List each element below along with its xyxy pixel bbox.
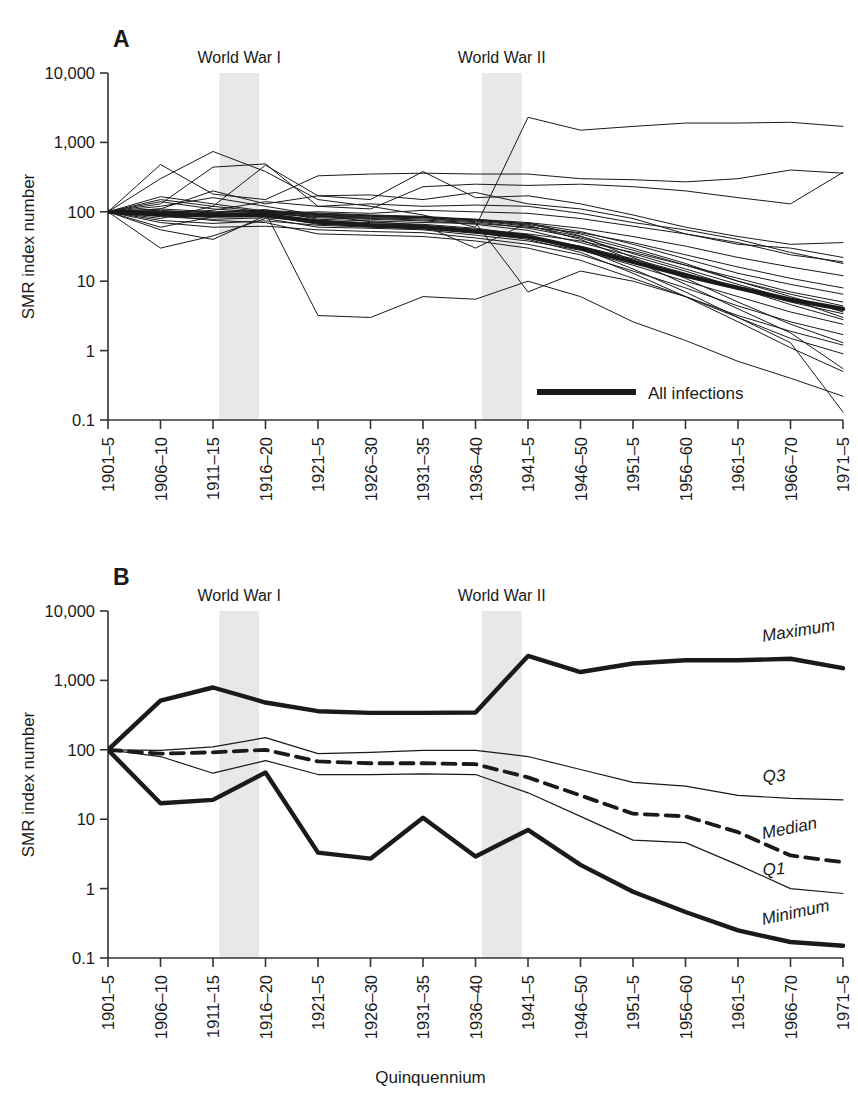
- series-label-median: Median: [760, 814, 818, 843]
- x-tick-label: 1901–5: [99, 975, 117, 1030]
- panel-A: World War IWorld War II10,0001,000100101…: [19, 26, 852, 501]
- figure-root: World War IWorld War II10,0001,000100101…: [0, 0, 858, 1111]
- y-tick-label: 1,000: [54, 133, 95, 151]
- x-tick-label: 1971–5: [834, 975, 852, 1030]
- y-tick-label: 0.1: [72, 411, 95, 429]
- y-tick-label: 10,000: [45, 64, 95, 82]
- x-tick-label: 1921–5: [309, 437, 327, 492]
- x-tick-label: 1906–10: [152, 975, 170, 1039]
- x-tick-label: 1931–35: [414, 975, 432, 1039]
- series-group: [108, 117, 843, 412]
- y-tick-label: 100: [67, 741, 95, 759]
- y-axis-title: SMR index number: [19, 173, 38, 319]
- x-tick-label: 1941–5: [519, 437, 537, 492]
- series-label-maximum: Maximum: [761, 615, 837, 645]
- y-tick-label: 10: [77, 272, 95, 290]
- legend-label-all-infections: All infections: [648, 384, 743, 403]
- x-tick-label: 1966–70: [782, 437, 800, 501]
- x-tick-label: 1951–5: [624, 437, 642, 492]
- x-tick-label: 1971–5: [834, 437, 852, 492]
- x-tick-label: 1921–5: [309, 975, 327, 1030]
- war-label-1: World War I: [197, 49, 281, 66]
- series-line-minimum: [108, 750, 843, 946]
- series-line-cause-1: [108, 117, 843, 227]
- x-tick-label: 1941–5: [519, 975, 537, 1030]
- y-tick-label: 1: [86, 880, 95, 898]
- x-tick-label: 1956–60: [677, 437, 695, 501]
- x-tick-label: 1956–60: [677, 975, 695, 1039]
- x-tick-label: 1946–50: [572, 437, 590, 501]
- war-label-2: World War II: [458, 49, 546, 66]
- x-tick-label: 1961–5: [729, 975, 747, 1030]
- x-tick-label: 1901–5: [99, 437, 117, 492]
- figure-svg: World War IWorld War II10,0001,000100101…: [0, 0, 858, 1111]
- panel-B: World War IWorld War II10,0001,000100101…: [19, 564, 852, 1087]
- war-label-2: World War II: [458, 587, 546, 604]
- y-tick-label: 10: [77, 810, 95, 828]
- series-label-minimum: Minimum: [760, 896, 831, 929]
- y-tick-label: 10,000: [45, 602, 95, 620]
- series-label-q1: Q1: [762, 859, 786, 880]
- x-tick-label: 1906–10: [152, 437, 170, 501]
- war-band-2: [482, 611, 522, 958]
- series-line-q3: [108, 738, 843, 800]
- panel-b-letter: B: [113, 564, 130, 590]
- series-line-maximum: [108, 656, 843, 750]
- x-tick-label: 1926–30: [362, 437, 380, 501]
- x-tick-label: 1911–15: [204, 437, 222, 500]
- y-tick-label: 1: [86, 342, 95, 360]
- y-tick-label: 1,000: [54, 671, 95, 689]
- x-tick-label: 1936–40: [467, 975, 485, 1039]
- y-tick-label: 100: [67, 203, 95, 221]
- x-tick-label: 1951–5: [624, 975, 642, 1030]
- x-tick-label: 1931–35: [414, 437, 432, 501]
- x-axis-title: Quinquennium: [375, 1068, 486, 1087]
- y-tick-label: 0.1: [72, 949, 95, 967]
- series-group: [108, 656, 843, 946]
- war-band-1: [219, 73, 259, 420]
- x-tick-label: 1961–5: [729, 437, 747, 492]
- series-line-cause-22: [108, 212, 843, 306]
- x-tick-label: 1916–20: [257, 437, 275, 501]
- x-tick-label: 1946–50: [572, 975, 590, 1039]
- series-line-q1: [108, 750, 843, 894]
- x-tick-label: 1936–40: [467, 437, 485, 501]
- series-line-median: [108, 750, 843, 862]
- x-tick-label: 1966–70: [782, 975, 800, 1039]
- y-axis-title: SMR index number: [19, 711, 38, 857]
- series-label-q3: Q3: [762, 766, 786, 787]
- x-tick-label: 1911–15: [204, 975, 222, 1038]
- x-tick-label: 1926–30: [362, 975, 380, 1039]
- war-label-1: World War I: [197, 587, 281, 604]
- x-tick-label: 1916–20: [257, 975, 275, 1039]
- panel-a-letter: A: [113, 26, 130, 52]
